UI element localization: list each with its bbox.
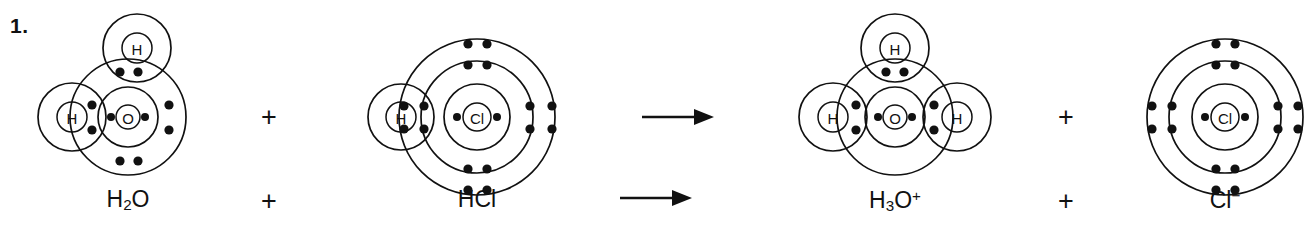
electron-dot xyxy=(87,100,96,109)
chloride-symbol: Cl xyxy=(1218,110,1232,127)
electron-dot xyxy=(482,39,491,48)
electron-dot xyxy=(133,156,142,165)
electron-dot xyxy=(87,125,96,134)
electron-dot xyxy=(419,124,428,133)
electron-dot xyxy=(482,164,491,173)
electron-dot xyxy=(1230,39,1239,48)
hydronium-hydrogen-right-symbol: H xyxy=(952,110,963,127)
electron-dot xyxy=(1230,60,1239,69)
electron-dot xyxy=(874,113,882,121)
formula-label-chloride: Cl− xyxy=(1182,188,1268,212)
electron-dot xyxy=(493,113,501,121)
caption-plus-operator-products: + xyxy=(1051,188,1081,215)
formula-label-hydrogen-chloride: HCl xyxy=(432,188,522,211)
electron-dot xyxy=(115,67,124,76)
electron-dot xyxy=(525,124,534,133)
electron-dot xyxy=(899,67,908,76)
electron-dot xyxy=(463,60,472,69)
water-oxygen-symbol: O xyxy=(122,110,134,127)
electron-dot xyxy=(107,113,115,121)
electron-dot xyxy=(463,39,472,48)
water-hydrogen-left-symbol: H xyxy=(67,110,78,127)
formula-label-water: H2O xyxy=(78,188,178,213)
formula-hcl-text: HCl xyxy=(458,186,496,212)
electron-dot xyxy=(929,100,938,109)
electron-dot xyxy=(1167,101,1176,110)
electron-dot xyxy=(1293,101,1302,110)
electron-dot xyxy=(399,101,408,110)
electron-dot xyxy=(851,125,860,134)
hydronium-oxygen-symbol: O xyxy=(889,110,901,127)
electron-dot xyxy=(1293,124,1302,133)
formula-hydronium-text: H3O+ xyxy=(869,187,921,213)
electron-dot xyxy=(115,156,124,165)
electron-dot xyxy=(908,113,916,121)
reaction-arrow-lower xyxy=(620,190,692,206)
electron-dot xyxy=(1230,164,1239,173)
reaction-arrow-upper xyxy=(642,109,714,125)
electron-dot xyxy=(547,124,556,133)
electron-dot xyxy=(1147,101,1156,110)
molecule-hydronium: O H H H xyxy=(799,14,991,175)
electron-dot xyxy=(851,100,860,109)
hydronium-hydrogen-top-symbol: H xyxy=(890,41,901,58)
electron-dot xyxy=(1201,113,1209,121)
electron-dot xyxy=(133,67,142,76)
electron-dot xyxy=(1273,124,1282,133)
electron-dot xyxy=(141,113,149,121)
electron-dot xyxy=(453,113,461,121)
electron-dot xyxy=(1147,124,1156,133)
electron-dot xyxy=(881,67,890,76)
electron-dot xyxy=(419,101,428,110)
electron-dot xyxy=(482,60,491,69)
ion-chloride: Cl xyxy=(1147,39,1303,195)
electron-dot xyxy=(1241,113,1249,121)
electron-dot xyxy=(929,125,938,134)
electron-dot xyxy=(1167,124,1176,133)
electron-dot xyxy=(1211,164,1220,173)
formula-label-hydronium: H3O+ xyxy=(843,188,947,214)
molecule-hydrogen-chloride: Cl H xyxy=(368,39,557,195)
water-hydrogen-top-symbol: H xyxy=(132,41,143,58)
electron-dot xyxy=(164,125,173,134)
hcl-chlorine-symbol: Cl xyxy=(470,110,484,127)
plus-operator-products: + xyxy=(1051,104,1081,131)
formula-chloride-text: Cl− xyxy=(1210,187,1241,213)
electron-dot xyxy=(525,101,534,110)
reaction-diagram-canvas: O H H xyxy=(0,0,1311,241)
electron-dot xyxy=(164,100,173,109)
caption-plus-operator-reactants: + xyxy=(254,188,284,215)
electron-dot xyxy=(547,101,556,110)
hcl-hydrogen-symbol: H xyxy=(396,110,407,127)
plus-operator-reactants: + xyxy=(254,104,284,131)
electron-dot xyxy=(1211,60,1220,69)
hydronium-hydrogen-left-symbol: H xyxy=(828,110,839,127)
electron-dot xyxy=(1211,39,1220,48)
molecule-water: O H H xyxy=(38,14,186,175)
electron-dot xyxy=(463,164,472,173)
electron-dot xyxy=(1273,101,1282,110)
formula-water-text: H2O xyxy=(107,186,150,212)
electron-dot xyxy=(399,124,408,133)
